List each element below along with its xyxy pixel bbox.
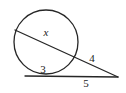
lower-secant-line — [25, 76, 118, 77]
label-secant-external-4: 4 — [89, 53, 95, 64]
label-tangent-external-5: 5 — [83, 78, 89, 89]
label-chord-3: 3 — [40, 64, 46, 75]
geometry-canvas — [0, 0, 126, 93]
geometry-figure: x 3 4 5 — [0, 0, 126, 93]
label-chord-x: x — [44, 27, 49, 38]
